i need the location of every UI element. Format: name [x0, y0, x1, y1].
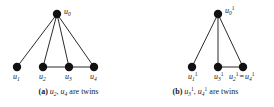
panel-caption-text-b: are twins [209, 87, 238, 96]
vertex-label-u2u4-quotient: u21=u41 [229, 73, 255, 81]
figure-panel-b: u01 u11 u31 u21=u41 (b) u31, u41 are twi… [137, 0, 274, 107]
vertex-label-u3-quotient: u31 [214, 73, 224, 81]
panel-caption-text-a: are twins [69, 87, 98, 96]
vertex-u0 [53, 10, 61, 18]
panel-caption-term-1-a: u2 [50, 87, 57, 96]
vertex-label-u3: u3 [65, 73, 72, 81]
edge-u0-u1 [17, 14, 57, 67]
edge-u0-u1-quotient [192, 14, 218, 67]
figure-panel-a: u0 u1 u2 u3 u4 (a) u2, u4 are twins [0, 0, 137, 107]
vertex-u1 [13, 63, 21, 71]
panel-caption-term-2-a: u4 [61, 87, 68, 96]
vertex-label-u4: u4 [90, 73, 97, 81]
vertex-u2 [39, 63, 47, 71]
panel-caption-b: (b) u31, u41 are twins [137, 88, 274, 97]
edge-u0-u2u4-quotient [218, 14, 243, 67]
vertex-u0-quotient [214, 10, 222, 18]
vertex-label-u0: u0 [64, 8, 71, 16]
panel-caption-term-2-b: u41 [198, 87, 208, 96]
figure-root: u0 u1 u2 u3 u4 (a) u2, u4 are twins u01 … [0, 0, 274, 107]
vertex-u4 [90, 63, 98, 71]
vertex-label-u1-quotient: u11 [188, 73, 198, 81]
vertex-label-u2: u2 [39, 73, 46, 81]
panel-caption-term-1-b: u31 [184, 87, 194, 96]
vertex-label-u0-quotient: u01 [225, 7, 235, 15]
vertex-u2u4-quotient [239, 63, 247, 71]
panel-caption-a: (a) u2, u4 are twins [0, 88, 137, 97]
panel-caption-tag-a: (a) [39, 87, 48, 96]
vertex-u3 [65, 63, 73, 71]
vertex-label-u1: u1 [13, 73, 20, 81]
panel-caption-tag-b: (b) [173, 87, 183, 96]
edge-u0-u2 [43, 14, 57, 67]
